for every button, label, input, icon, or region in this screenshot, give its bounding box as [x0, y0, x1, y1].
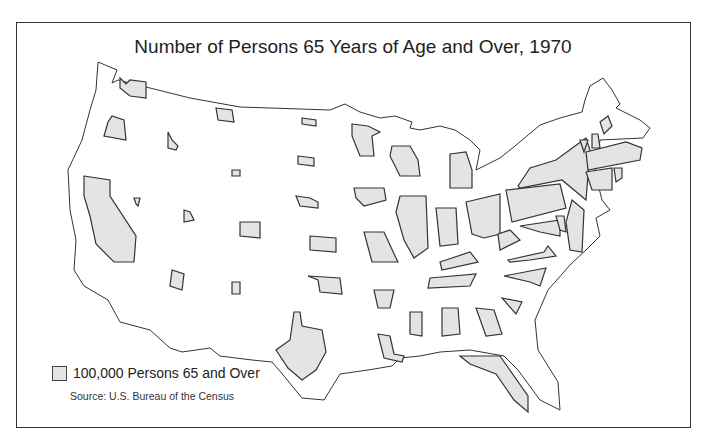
state-florida: [460, 356, 528, 412]
state-connecticut: [586, 168, 612, 190]
state-south-carolina: [502, 298, 522, 314]
state-california: [84, 176, 136, 262]
state-rhode-island: [614, 168, 622, 182]
state-new-hampshire: [592, 134, 600, 148]
state-montana: [216, 108, 234, 122]
state-utah: [184, 210, 194, 222]
state-north-dakota: [302, 118, 316, 126]
state-louisiana: [378, 334, 404, 362]
legend: 100,000 Persons 65 and Over: [52, 365, 260, 381]
state-alabama: [442, 308, 460, 336]
state-mississippi: [410, 312, 422, 336]
state-minnesota: [352, 124, 380, 156]
state-missouri: [364, 232, 398, 262]
state-georgia: [476, 308, 502, 336]
state-new-mexico: [232, 282, 240, 294]
state-kansas: [310, 236, 336, 252]
state-ohio: [466, 194, 500, 238]
state-wisconsin: [390, 146, 420, 176]
source-note: Source: U.S. Bureau of the Census: [70, 390, 234, 402]
state-indiana: [436, 208, 458, 246]
state-nevada: [134, 198, 140, 206]
state-maine: [600, 116, 612, 134]
state-idaho: [168, 132, 178, 150]
state-north-carolina: [504, 268, 546, 286]
state-illinois: [396, 196, 428, 258]
state-kentucky: [440, 252, 478, 270]
state-arkansas: [374, 290, 394, 308]
state-maryland: [520, 220, 560, 236]
state-south-dakota: [298, 156, 314, 166]
state-new-jersey: [566, 200, 584, 252]
state-wyoming: [240, 222, 260, 238]
state-arizona: [170, 270, 184, 290]
legend-swatch: [52, 366, 67, 381]
us-outline: [68, 62, 650, 410]
state-virginia: [508, 246, 556, 262]
state-colorado: [232, 170, 240, 176]
state-west-virginia: [498, 230, 520, 250]
state-oklahoma: [308, 276, 342, 294]
state-tennessee: [428, 274, 476, 288]
state-nebraska: [296, 196, 318, 208]
state-michigan: [450, 152, 472, 188]
state-iowa: [354, 188, 386, 206]
state-texas: [276, 312, 326, 380]
state-oregon: [104, 116, 126, 140]
legend-label: 100,000 Persons 65 and Over: [73, 365, 260, 381]
